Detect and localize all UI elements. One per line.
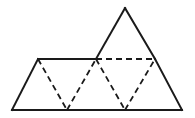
triangle-net-diagram [0,0,195,118]
